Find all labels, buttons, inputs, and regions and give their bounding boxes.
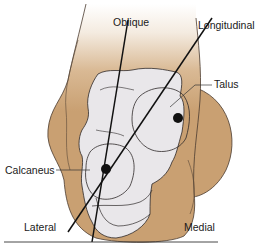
longitudinal-label: Longitudinal bbox=[198, 20, 255, 31]
foot-axis-diagram: Oblique Longitudinal Talus Calcaneus Lat… bbox=[0, 0, 255, 247]
oblique-label: Oblique bbox=[113, 17, 149, 28]
foot-illustration bbox=[0, 0, 255, 247]
calcaneus-label: Calcaneus bbox=[5, 165, 55, 176]
calcaneus-center-dot bbox=[101, 164, 111, 174]
lateral-label: Lateral bbox=[24, 222, 56, 233]
medial-label: Medial bbox=[184, 222, 215, 233]
talus-label: Talus bbox=[214, 79, 239, 90]
talus-center-dot bbox=[173, 113, 183, 123]
